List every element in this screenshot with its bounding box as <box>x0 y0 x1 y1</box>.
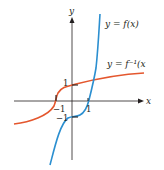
function-label: y = f(x) <box>104 19 139 29</box>
inverse-function-label: y = f⁻¹(x <box>106 59 146 69</box>
y-tick-label-1: 1 <box>63 78 68 88</box>
y-axis-label: y <box>68 6 75 16</box>
y-tick-label-neg1: −1 <box>56 113 69 123</box>
function-inverse-diagram: x y 1 −1 1 −1 y = f(x) y = f⁻¹(x <box>0 0 164 170</box>
x-tick-label-1: 1 <box>86 104 91 114</box>
x-tick-label-neg1: −1 <box>53 104 66 114</box>
inverse-function-curve <box>14 73 144 124</box>
function-curve <box>50 14 100 165</box>
x-axis-label: x <box>146 96 151 106</box>
y-axis-arrow-icon <box>70 17 75 23</box>
x-axis-arrow-icon <box>138 99 144 104</box>
